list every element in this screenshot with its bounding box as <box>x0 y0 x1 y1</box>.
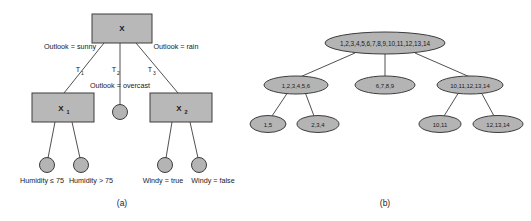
node-x2-label: X <box>176 104 182 113</box>
node-b-l2-1-label: 2,3,4 <box>311 122 325 128</box>
subtree-label-t3-sub: 3 <box>153 70 156 76</box>
node-x2-subscript: 2 <box>185 109 188 115</box>
edge-label-outlook-overcast: Outlook = overcast <box>90 81 150 90</box>
leaf-label-windy-true: Windy = true <box>143 176 184 185</box>
node-overcast-leaf-circle <box>113 105 128 120</box>
leaf-label-humidity-le75: Humidity ≤ 75 <box>20 176 64 185</box>
subtree-label-t2-sub: 2 <box>117 70 120 76</box>
edge-b-n1-to-l2 <box>305 92 314 116</box>
edge-x2-to-leaf3 <box>166 122 172 158</box>
node-x1-label: X <box>58 104 64 113</box>
edge-b-root-to-n1 <box>300 53 355 77</box>
node-leaf-windy-false-circle <box>192 158 207 173</box>
caption-panel-b: (b) <box>380 198 391 208</box>
node-b-l1-2-label: 10,11,12,13,14 <box>450 83 490 89</box>
edge-x2-to-leaf4 <box>190 122 198 158</box>
node-b-root-label: 1,2,3,4,5,6,7,8,9,10,11,12,13,14 <box>340 40 431 47</box>
node-b-l2-3-label: 12,13,14 <box>486 122 510 128</box>
edge-b-n3-to-l3 <box>444 92 459 116</box>
edge-label-outlook-sunny: Outlook = sunny <box>44 42 97 51</box>
panel-b: 1,2,3,4,5,6,7,8,9,10,11,12,13,14 1,2,3,4… <box>250 32 523 208</box>
panel-a: X X 1 X 2 Outlook = sunny Outlook = over… <box>20 14 235 208</box>
edge-b-root-to-n3 <box>415 53 470 77</box>
edge-label-outlook-rain: Outlook = rain <box>154 42 199 51</box>
node-b-l1-1-label: 6,7,8,9 <box>376 83 395 89</box>
node-leaf-windy-true-circle <box>158 158 173 173</box>
edge-b-n3-to-l4 <box>481 92 494 116</box>
node-b-l2-2-label: 10,11 <box>433 122 448 128</box>
subtree-label-t3: T 3 <box>148 65 156 76</box>
node-b-l2-0-label: 1,5 <box>264 122 273 128</box>
subtree-label-t1-sub: 1 <box>81 70 84 76</box>
leaf-label-humidity-gt75: Humidity > 75 <box>69 176 113 185</box>
edge-x1-to-leaf2 <box>72 122 80 158</box>
node-b-l1-0-label: 1,2,3,4,5,6 <box>282 83 311 89</box>
subtree-label-t2: T 2 <box>112 65 120 76</box>
figure-svg: X X 1 X 2 Outlook = sunny Outlook = over… <box>0 0 531 221</box>
edge-x1-to-leaf1 <box>48 122 55 158</box>
leaf-label-windy-false: Windy = false <box>191 176 234 185</box>
node-leaf-humidity-le75-circle <box>40 158 55 173</box>
figure-root: X X 1 X 2 Outlook = sunny Outlook = over… <box>0 0 531 221</box>
edge-b-n1-to-l1 <box>272 92 288 116</box>
node-root-label: X <box>119 24 125 33</box>
node-x1-subscript: 1 <box>67 109 70 115</box>
caption-panel-a: (a) <box>117 198 128 208</box>
subtree-label-t1: T 1 <box>76 65 84 76</box>
node-leaf-humidity-gt75-circle <box>74 158 89 173</box>
